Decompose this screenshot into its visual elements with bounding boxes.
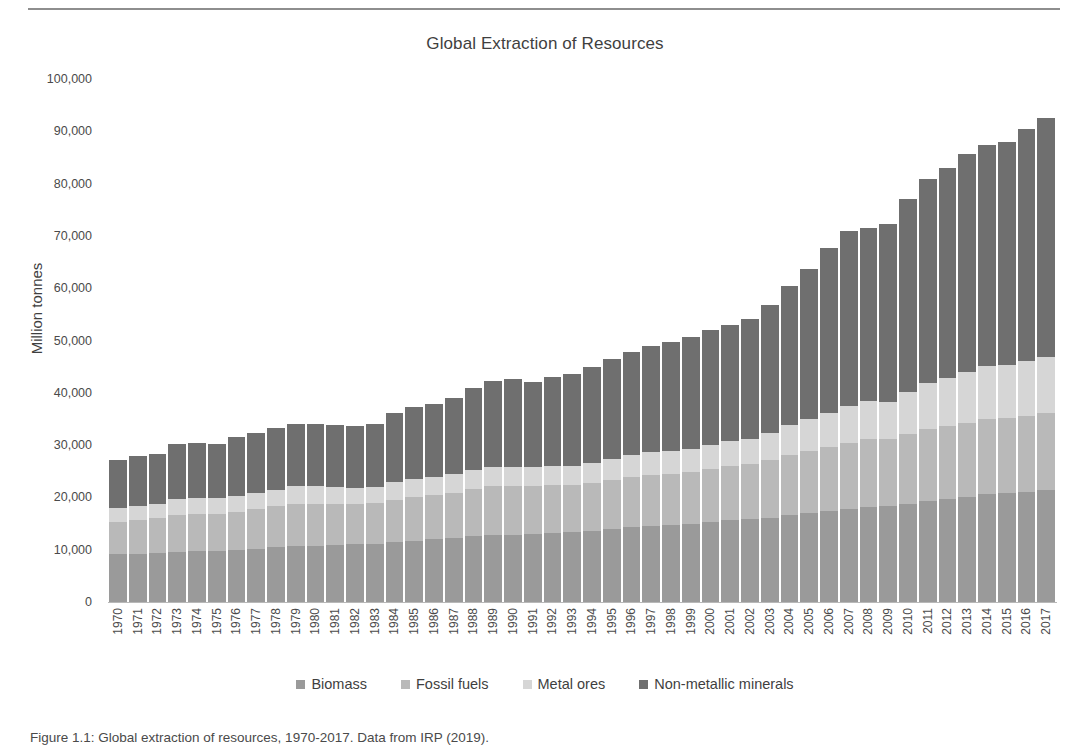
x-axis-tick-label: 1978 bbox=[269, 608, 283, 635]
bar-column[interactable] bbox=[582, 79, 602, 602]
bar-segment bbox=[919, 501, 937, 602]
bar-column[interactable] bbox=[148, 79, 168, 602]
bar-column[interactable] bbox=[918, 79, 938, 602]
bar-column[interactable] bbox=[839, 79, 859, 602]
bar-segment bbox=[761, 460, 779, 518]
bar-segment bbox=[939, 426, 957, 499]
bar-column[interactable] bbox=[444, 79, 464, 602]
bar-stack bbox=[465, 388, 483, 602]
bar-column[interactable] bbox=[286, 79, 306, 602]
bar-column[interactable] bbox=[167, 79, 187, 602]
bar-column[interactable] bbox=[464, 79, 484, 602]
bar-column[interactable] bbox=[701, 79, 721, 602]
bar-column[interactable] bbox=[325, 79, 345, 602]
x-axis-tick-label: 1982 bbox=[348, 608, 362, 635]
bar-column[interactable] bbox=[997, 79, 1017, 602]
bar-stack bbox=[721, 325, 739, 602]
bar-segment bbox=[939, 499, 957, 602]
bar-segment bbox=[583, 483, 601, 531]
legend-item[interactable]: Biomass bbox=[296, 676, 367, 692]
x-axis-tick-label: 1994 bbox=[585, 608, 599, 635]
bar-column[interactable] bbox=[602, 79, 622, 602]
bar-column[interactable] bbox=[128, 79, 148, 602]
bar-segment bbox=[346, 504, 364, 545]
x-axis-tick: 1970 bbox=[108, 606, 128, 666]
bar-segment bbox=[326, 545, 344, 602]
bar-segment bbox=[484, 535, 502, 602]
figure-caption: Figure 1.1: Global extraction of resourc… bbox=[30, 730, 1060, 745]
bar-segment bbox=[662, 525, 680, 602]
bar-column[interactable] bbox=[740, 79, 760, 602]
bar-column[interactable] bbox=[898, 79, 918, 602]
bar-column[interactable] bbox=[1036, 79, 1056, 602]
bar-segment bbox=[326, 487, 344, 504]
bar-column[interactable] bbox=[878, 79, 898, 602]
legend-item[interactable]: Metal ores bbox=[523, 676, 606, 692]
legend-item[interactable]: Fossil fuels bbox=[401, 676, 489, 692]
bar-segment bbox=[761, 518, 779, 602]
bar-column[interactable] bbox=[760, 79, 780, 602]
bar-column[interactable] bbox=[345, 79, 365, 602]
bar-segment bbox=[998, 418, 1016, 493]
bar-column[interactable] bbox=[938, 79, 958, 602]
bar-segment bbox=[781, 515, 799, 602]
bar-column[interactable] bbox=[523, 79, 543, 602]
bar-column[interactable] bbox=[483, 79, 503, 602]
bar-column[interactable] bbox=[404, 79, 424, 602]
bar-segment bbox=[820, 447, 838, 511]
bar-stack bbox=[623, 352, 641, 602]
bar-column[interactable] bbox=[641, 79, 661, 602]
x-axis-tick-label: 2017 bbox=[1039, 608, 1053, 635]
bar-column[interactable] bbox=[385, 79, 405, 602]
bar-column[interactable] bbox=[365, 79, 385, 602]
bar-segment bbox=[366, 544, 384, 602]
bar-segment bbox=[1037, 490, 1055, 602]
bar-column[interactable] bbox=[562, 79, 582, 602]
bar-column[interactable] bbox=[859, 79, 879, 602]
bar-segment bbox=[919, 429, 937, 501]
bar-segment bbox=[326, 425, 344, 487]
bar-column[interactable] bbox=[207, 79, 227, 602]
bar-column[interactable] bbox=[424, 79, 444, 602]
bar-stack bbox=[129, 456, 147, 602]
bar-column[interactable] bbox=[503, 79, 523, 602]
bar-column[interactable] bbox=[622, 79, 642, 602]
bar-column[interactable] bbox=[819, 79, 839, 602]
bar-column[interactable] bbox=[681, 79, 701, 602]
bar-segment bbox=[287, 504, 305, 546]
bar-column[interactable] bbox=[957, 79, 977, 602]
bar-column[interactable] bbox=[780, 79, 800, 602]
bar-stack bbox=[840, 231, 858, 602]
y-axis-tick-label: 70,000 bbox=[54, 229, 92, 243]
bar-segment bbox=[879, 506, 897, 602]
bar-column[interactable] bbox=[543, 79, 563, 602]
x-axis-tick: 1974 bbox=[187, 606, 207, 666]
x-axis-tick: 1987 bbox=[444, 606, 464, 666]
x-axis-tick-label: 1973 bbox=[170, 608, 184, 635]
bar-column[interactable] bbox=[246, 79, 266, 602]
bar-segment bbox=[820, 248, 838, 412]
bar-segment bbox=[603, 359, 621, 459]
bar-segment bbox=[346, 426, 364, 488]
bar-column[interactable] bbox=[227, 79, 247, 602]
bar-column[interactable] bbox=[799, 79, 819, 602]
bar-segment bbox=[978, 494, 996, 602]
bar-column[interactable] bbox=[187, 79, 207, 602]
bar-segment bbox=[761, 305, 779, 433]
bar-column[interactable] bbox=[306, 79, 326, 602]
bar-column[interactable] bbox=[661, 79, 681, 602]
bar-column[interactable] bbox=[977, 79, 997, 602]
bar-segment bbox=[445, 398, 463, 474]
bar-stack bbox=[682, 337, 700, 602]
x-axis-tick-label: 2005 bbox=[802, 608, 816, 635]
x-axis-tick: 2005 bbox=[799, 606, 819, 666]
x-axis-tick-label: 1971 bbox=[131, 608, 145, 635]
bar-segment bbox=[800, 269, 818, 419]
bar-column[interactable] bbox=[1017, 79, 1037, 602]
legend-item[interactable]: Non-metallic minerals bbox=[639, 676, 793, 692]
bar-column[interactable] bbox=[266, 79, 286, 602]
legend-swatch-icon bbox=[401, 680, 410, 689]
bar-column[interactable] bbox=[720, 79, 740, 602]
bar-segment bbox=[109, 460, 127, 509]
bar-column[interactable] bbox=[108, 79, 128, 602]
